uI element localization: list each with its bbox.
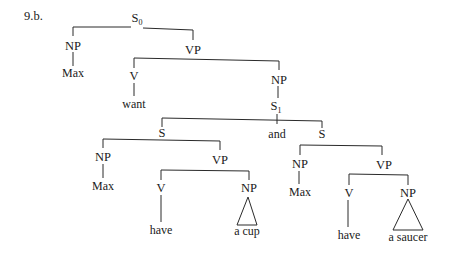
word-right-max: Max <box>289 185 311 199</box>
node-s-left: S <box>159 126 166 140</box>
word-right-have: have <box>338 228 361 242</box>
word-left-max: Max <box>92 179 114 193</box>
node-vp-main: VP <box>185 43 201 57</box>
node-right-v: V <box>344 186 353 200</box>
node-np-object: NP <box>271 73 287 87</box>
word-max: Max <box>62 66 84 80</box>
edge-s0-vp <box>143 28 193 40</box>
edge-left-s-children <box>103 139 220 150</box>
syntax-tree: 9.b. S0 NP Max VP V want NP S1 S and S N… <box>0 0 449 258</box>
node-s1: S1 <box>271 99 282 115</box>
phrase-a-saucer: a saucer <box>389 230 428 244</box>
edge-left-vp-children <box>161 170 249 180</box>
node-s-right: S <box>319 127 326 141</box>
triangle-left-obj <box>237 197 257 225</box>
node-left-obj-np: NP <box>241 181 257 195</box>
node-left-v: V <box>156 181 165 195</box>
edge-right-s-children <box>300 145 382 155</box>
node-right-vp: VP <box>376 158 392 172</box>
triangle-right-obj <box>393 199 423 230</box>
edge-right-vp-children <box>349 174 408 185</box>
node-np-subject: NP <box>65 39 81 53</box>
node-left-vp: VP <box>212 153 228 167</box>
word-want: want <box>122 97 146 111</box>
phrase-a-cup: a cup <box>234 224 260 238</box>
node-right-np: NP <box>292 157 308 171</box>
edge-vp-children <box>134 58 279 70</box>
node-v-main: V <box>129 69 138 83</box>
example-label: 9.b. <box>24 9 43 23</box>
node-s0: S0 <box>132 11 143 27</box>
word-left-have: have <box>150 223 173 237</box>
edge-s1-children <box>162 118 322 128</box>
node-left-np: NP <box>95 150 111 164</box>
edge-s0-np <box>73 27 131 36</box>
word-and: and <box>268 127 285 141</box>
